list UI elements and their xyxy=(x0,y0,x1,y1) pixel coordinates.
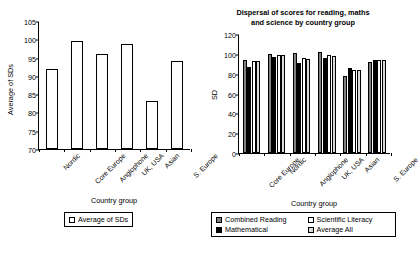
x-tick-mark xyxy=(366,153,367,156)
bar-group xyxy=(365,35,390,153)
bar xyxy=(302,58,306,153)
right-chart-legend-item[interactable]: Combined Reading xyxy=(216,215,300,224)
right-chart-plot-area: 020406080100120 xyxy=(238,35,390,154)
bar-group xyxy=(264,35,289,153)
x-tick-mark xyxy=(264,153,265,156)
x-tick-mark xyxy=(191,149,192,152)
bar xyxy=(373,60,377,153)
x-tick-mark xyxy=(239,153,240,156)
bar xyxy=(377,60,381,153)
legend-swatch-icon xyxy=(216,227,222,233)
bar xyxy=(318,52,322,153)
bar xyxy=(368,62,372,153)
x-tick-mark xyxy=(315,153,316,156)
bar xyxy=(243,60,247,153)
bar xyxy=(252,61,256,153)
left-chart-legend-item[interactable]: Average of SDs xyxy=(69,215,128,224)
right-chart-title-line-2: and science by country group xyxy=(209,18,397,28)
left-chart-plot-area: 707580859095100105 xyxy=(38,22,190,150)
bar xyxy=(343,76,347,153)
right-chart-title: Dispersal of scores for reading, maths a… xyxy=(209,8,397,27)
left-chart-y-axis-label: Average of SDs xyxy=(6,40,16,140)
bar xyxy=(348,68,352,153)
bar-group xyxy=(315,35,340,153)
bar xyxy=(146,101,158,149)
left-chart-x-axis-title: Country group xyxy=(38,196,190,205)
bar xyxy=(272,57,276,153)
x-tick-mark xyxy=(290,153,291,156)
bar xyxy=(332,56,336,153)
bar xyxy=(268,54,272,153)
bar xyxy=(281,55,285,153)
right-chart-y-axis-label: SD xyxy=(210,75,220,115)
legend-label: Scientific Literacy xyxy=(317,215,373,224)
legend-label: Combined Reading xyxy=(225,215,287,224)
bar xyxy=(121,44,133,149)
bar xyxy=(382,60,386,153)
legend-swatch-icon xyxy=(69,217,75,223)
x-tick-mark xyxy=(90,149,91,152)
right-chart-legend-item[interactable]: Average All xyxy=(308,225,392,234)
bar-group xyxy=(140,22,165,149)
bar xyxy=(323,58,327,153)
bar xyxy=(171,61,183,149)
right-chart-legend: Combined ReadingScientific LiteracyMathe… xyxy=(211,212,396,237)
bar-group xyxy=(239,35,264,153)
legend-label: Average of SDs xyxy=(78,215,128,224)
bar-group xyxy=(39,22,64,149)
x-tick-label: Nordic xyxy=(62,152,81,171)
legend-swatch-icon xyxy=(308,227,314,233)
bar xyxy=(327,55,331,153)
right-chart-title-line-1: Dispersal of scores for reading, maths xyxy=(209,8,397,18)
right-chart-bars xyxy=(239,35,390,153)
bar-group xyxy=(289,35,314,153)
bar xyxy=(306,59,310,153)
legend-label: Mathematical xyxy=(225,225,268,234)
x-tick-mark xyxy=(166,149,167,152)
right-chart-legend-item[interactable]: Scientific Literacy xyxy=(308,215,392,224)
bar-group xyxy=(64,22,89,149)
bar xyxy=(277,55,281,153)
x-tick-mark xyxy=(115,149,116,152)
right-chart-x-axis-title: Country group xyxy=(238,199,390,208)
bar-group xyxy=(89,22,114,149)
bar-group xyxy=(340,35,365,153)
x-tick-label: Asian xyxy=(163,152,180,169)
bar xyxy=(247,67,251,153)
legend-swatch-icon xyxy=(216,217,222,223)
bar xyxy=(71,41,83,149)
bar-group xyxy=(165,22,190,149)
right-chart-legend-item[interactable]: Mathematical xyxy=(216,225,300,234)
x-tick-label: Asian xyxy=(363,156,380,173)
bar xyxy=(357,70,361,153)
bar xyxy=(256,61,260,153)
bar xyxy=(297,63,301,153)
x-tick-mark xyxy=(64,149,65,152)
x-tick-label: S. Europe xyxy=(392,156,419,183)
bar xyxy=(293,53,297,153)
bar xyxy=(352,70,356,153)
left-chart-bars xyxy=(39,22,190,149)
legend-swatch-icon xyxy=(308,217,314,223)
legend-label: Average All xyxy=(317,225,353,234)
bar xyxy=(96,54,108,149)
x-tick-mark xyxy=(340,153,341,156)
x-tick-mark xyxy=(391,153,392,156)
bar xyxy=(46,69,58,149)
x-tick-mark xyxy=(39,149,40,152)
left-chart-legend: Average of SDs xyxy=(64,212,133,227)
bar-group xyxy=(115,22,140,149)
left-chart-panel: Average of SDs 707580859095100105 Nordic… xyxy=(0,0,201,259)
right-chart-panel: Dispersal of scores for reading, maths a… xyxy=(201,0,402,259)
x-tick-mark xyxy=(140,149,141,152)
